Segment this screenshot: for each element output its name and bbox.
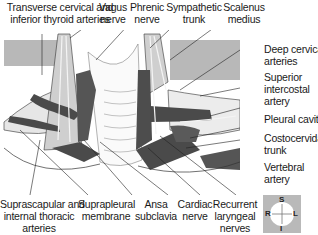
label-line: artery: [264, 173, 304, 185]
label-line: nerve: [97, 13, 129, 25]
label-vagus-nerve: Vagus nerve: [97, 1, 129, 25]
label-deep-cervical-arteries: Deep cervical arteries: [264, 43, 318, 67]
label-line: nerves: [210, 222, 260, 234]
label-line: subclavia: [134, 210, 178, 222]
label-line: Phrenic: [127, 1, 167, 13]
label-ansa-subclavia: Ansa subclavia: [134, 198, 178, 222]
label-line: membrane: [78, 210, 134, 222]
compass-inferior: I: [280, 224, 282, 233]
label-line: trunk: [264, 144, 318, 156]
label-suprapleural-membrane: Suprapleural membrane: [78, 198, 134, 222]
label-line: Pleural cavity: [264, 113, 318, 125]
compass-right: R: [265, 209, 271, 218]
label-line: Sympathetic: [166, 1, 222, 13]
label-line: Recurrent: [210, 198, 260, 210]
label-scalenus-medius: Scalenus medius: [220, 1, 268, 25]
label-line: Suprascapular and: [0, 198, 78, 210]
compass-superior: S: [279, 195, 284, 204]
anatomical-illustration: [0, 30, 240, 195]
label-line: laryngeal: [210, 210, 260, 222]
label-line: intercostal: [264, 83, 310, 95]
label-superior-intercostal-artery: Superior intercostal artery: [264, 71, 310, 107]
compass-left: L: [293, 209, 298, 218]
label-line: trunk: [166, 13, 222, 25]
orientation-compass: S I R L: [263, 195, 301, 233]
label-line: Vagus: [97, 1, 129, 13]
backdrop-right: [170, 40, 240, 80]
label-line: Suprapleural: [78, 198, 134, 210]
label-line: artery: [264, 95, 310, 107]
label-line: arteries: [0, 222, 78, 234]
label-costocervical-trunk: Costocervida trunk: [264, 132, 318, 156]
label-phrenic-nerve: Phrenic nerve: [127, 1, 167, 25]
label-line: Costocervida: [264, 132, 318, 144]
label-sympathetic-trunk: Sympathetic trunk: [166, 1, 222, 25]
label-line: Ansa: [134, 198, 178, 210]
label-line: Superior: [264, 71, 310, 83]
label-line: internal thoracic: [0, 210, 78, 222]
label-line: Cardiac: [176, 198, 214, 210]
label-line: arteries: [264, 55, 318, 67]
label-recurrent-laryngeal-nerves: Recurrent laryngeal nerves: [210, 198, 260, 234]
label-suprascapular-internal-thoracic-arteries: Suprascapular and internal thoracic arte…: [0, 198, 78, 234]
label-pleural-cavity: Pleural cavity: [264, 113, 318, 125]
label-line: Deep cervical: [264, 43, 318, 55]
label-line: nerve: [127, 13, 167, 25]
label-line: Vertebral: [264, 161, 304, 173]
label-cardiac-nerve: Cardiac nerve: [176, 198, 214, 222]
label-line: Scalenus: [220, 1, 268, 13]
label-line: nerve: [176, 210, 214, 222]
label-line: medius: [220, 13, 268, 25]
label-vertebral-artery: Vertebral artery: [264, 161, 304, 185]
